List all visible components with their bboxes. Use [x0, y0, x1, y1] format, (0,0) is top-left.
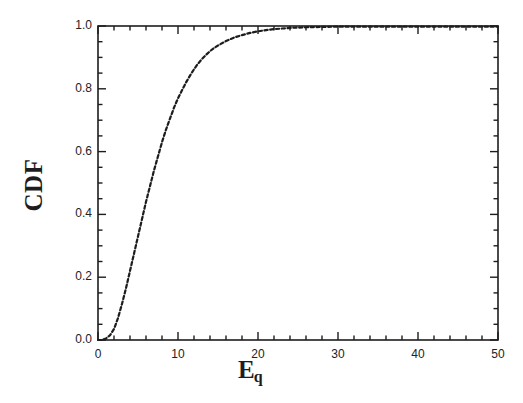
- x-axis-title-text: Eq: [238, 356, 264, 383]
- cdf-curve: [98, 27, 498, 340]
- x-tick-label: 50: [483, 347, 513, 361]
- y-axis-title: CDF: [14, 140, 54, 230]
- y-axis-title-text: CDF: [20, 159, 48, 212]
- data-series-group: [98, 27, 498, 340]
- y-axis-major-ticks: [98, 26, 498, 340]
- y-tick-label: 0.4: [75, 206, 92, 220]
- y-axis-minor-ticks: [98, 42, 498, 325]
- x-axis-major-ticks: [98, 26, 498, 340]
- x-tick-label: 40: [403, 347, 433, 361]
- x-axis-minor-ticks: [114, 26, 482, 340]
- x-axis-title: Eq: [238, 356, 328, 396]
- frame-rect: [98, 26, 498, 340]
- plot-frame: [98, 26, 498, 340]
- y-tick-label: 0.8: [75, 81, 92, 95]
- x-tick-label: 0: [83, 347, 113, 361]
- x-tick-label: 10: [163, 347, 193, 361]
- x-axis-title-base: E: [238, 356, 255, 383]
- y-tick-label: 1.0: [75, 18, 92, 32]
- x-axis-title-subscript: q: [254, 368, 263, 385]
- cdf-figure: 0.00.20.40.60.81.0 01020304050 CDF Eq: [0, 0, 523, 403]
- y-tick-label: 0.6: [75, 144, 92, 158]
- y-tick-label: 0.2: [75, 269, 92, 283]
- y-tick-label: 0.0: [75, 332, 92, 346]
